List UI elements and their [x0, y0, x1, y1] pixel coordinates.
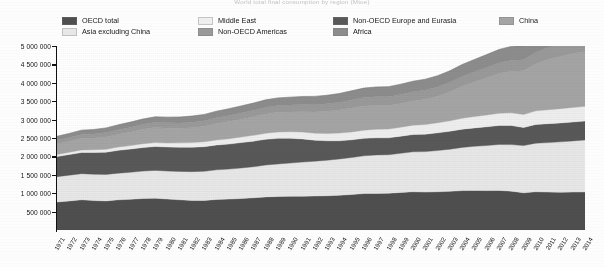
x-axis-tick-label: 1981	[175, 236, 188, 251]
y-axis-tick-label: 3 000 000	[21, 116, 51, 123]
x-axis-tick-label: 1989	[274, 236, 287, 251]
x-axis-tick-label: 2009	[519, 236, 532, 251]
legend-item-label: Asia excluding China	[82, 28, 150, 36]
y-axis-tick-mark	[52, 101, 57, 102]
legend-item-label: Africa	[353, 28, 372, 36]
x-axis-labels: 1971197219731974197519761977197819791980…	[57, 236, 585, 267]
legend-swatch-icon	[333, 17, 348, 25]
x-axis-tick-label: 1984	[212, 236, 225, 251]
x-axis-tick-label: 2013	[568, 236, 581, 251]
x-axis-tick-label: 1978	[139, 236, 152, 251]
x-axis-tick-label: 1993	[323, 236, 336, 251]
legend-item[interactable]: Africa	[333, 28, 372, 36]
legend-item[interactable]: OECD total	[62, 17, 119, 25]
x-axis-tick-label: 1999	[397, 236, 410, 251]
legend-item[interactable]: Middle East	[198, 17, 256, 25]
legend-item-label: Middle East	[218, 17, 256, 25]
y-axis-tick-mark	[52, 120, 57, 121]
plot-area	[57, 46, 585, 230]
y-axis-tick-label: 5 000 000	[21, 43, 51, 50]
y-axis-tick-mark	[52, 212, 57, 213]
legend-item-label: OECD total	[82, 17, 119, 25]
x-axis-tick-label: 1971	[53, 236, 66, 251]
x-axis-tick-label: 1977	[126, 236, 139, 251]
x-axis-tick-label: 2014	[581, 236, 594, 251]
legend-item[interactable]: Asia excluding China	[62, 28, 150, 36]
y-axis-tick-mark	[52, 83, 57, 84]
x-axis-tick-label: 1980	[163, 236, 176, 251]
legend-swatch-icon	[62, 17, 77, 25]
y-axis-tick-mark	[52, 46, 57, 47]
y-axis-tick-label: 4 000 000	[21, 79, 51, 86]
chart-legend: OECD totalAsia excluding ChinaMiddle Eas…	[62, 17, 602, 43]
x-axis-tick-label: 2002	[433, 236, 446, 251]
legend-item-label: Non-OECD Europe and Eurasia	[353, 17, 456, 25]
x-axis-tick-label: 2001	[421, 236, 434, 251]
x-axis-tick-label: 1973	[77, 236, 90, 251]
chart-root: World total final consumption by region …	[0, 0, 604, 267]
x-axis-tick-label: 1974	[90, 236, 103, 251]
x-axis-tick-label: 2000	[409, 236, 422, 251]
y-axis-tick-label: 2 000 000	[21, 153, 51, 160]
x-axis-tick-label: 2005	[470, 236, 483, 251]
legend-swatch-icon	[499, 17, 514, 25]
legend-swatch-icon	[62, 28, 77, 36]
y-axis-tick-mark	[52, 138, 57, 139]
legend-swatch-icon	[198, 28, 213, 36]
x-axis-tick-label: 1995	[347, 236, 360, 251]
y-axis-tick-label: 4 500 000	[21, 61, 51, 68]
y-axis-tick-label: 1 000 000	[21, 190, 51, 197]
x-axis-tick-label: 1990	[286, 236, 299, 251]
legend-item[interactable]: Non-OECD Americas	[198, 28, 287, 36]
y-axis-tick-mark	[52, 156, 57, 157]
x-axis-tick-label: 2012	[556, 236, 569, 251]
legend-swatch-icon	[198, 17, 213, 25]
x-axis-tick-label: 1991	[298, 236, 311, 251]
legend-item[interactable]: Non-OECD Europe and Eurasia	[333, 17, 456, 25]
x-axis-tick-label: 2004	[458, 236, 471, 251]
x-axis-tick-label: 1992	[311, 236, 324, 251]
x-axis-tick-label: 2003	[446, 236, 459, 251]
y-axis-tick-mark	[52, 175, 57, 176]
x-axis-tick-label: 2007	[495, 236, 508, 251]
chart-title: World total final consumption by region …	[0, 0, 604, 5]
x-axis-tick-label: 1976	[114, 236, 127, 251]
x-axis-tick-label: 2008	[507, 236, 520, 251]
x-axis-tick-label: 1982	[188, 236, 201, 251]
x-axis-tick-label: 2010	[532, 236, 545, 251]
legend-swatch-icon	[333, 28, 348, 36]
x-axis-tick-label: 1987	[249, 236, 262, 251]
x-axis-tick-label: 1988	[261, 236, 274, 251]
x-axis-tick-label: 1975	[102, 236, 115, 251]
y-axis-tick-label: 1 500 000	[21, 171, 51, 178]
x-axis-tick-label: 1983	[200, 236, 213, 251]
legend-item-label: Non-OECD Americas	[218, 28, 287, 36]
y-axis-labels: 5 000 0004 500 0004 000 0003 500 0003 00…	[0, 44, 54, 230]
x-axis-tick-label: 1997	[372, 236, 385, 251]
x-axis-tick-label: 1994	[335, 236, 348, 251]
x-axis-tick-label: 2006	[482, 236, 495, 251]
x-axis-tick-label: 1996	[360, 236, 373, 251]
x-axis-tick-label: 1998	[384, 236, 397, 251]
y-axis-tick-label: 500 000	[26, 208, 51, 215]
x-axis-tick-label: 1972	[65, 236, 78, 251]
y-axis-tick-label: 3 500 000	[21, 98, 51, 105]
plot-wrapper: 5 000 0004 500 0004 000 0003 500 0003 00…	[0, 44, 604, 267]
y-axis-tick-mark	[52, 64, 57, 65]
y-axis-tick-label: 2 500 000	[21, 135, 51, 142]
x-axis-tick-label: 1985	[225, 236, 238, 251]
stacked-area-svg	[57, 46, 585, 230]
x-axis-tick-label: 1986	[237, 236, 250, 251]
x-axis-tick-label: 1979	[151, 236, 164, 251]
legend-item[interactable]: China	[499, 17, 538, 25]
legend-item-label: China	[519, 17, 538, 25]
x-axis-tick-label: 2011	[544, 236, 557, 251]
y-axis-tick-mark	[52, 193, 57, 194]
